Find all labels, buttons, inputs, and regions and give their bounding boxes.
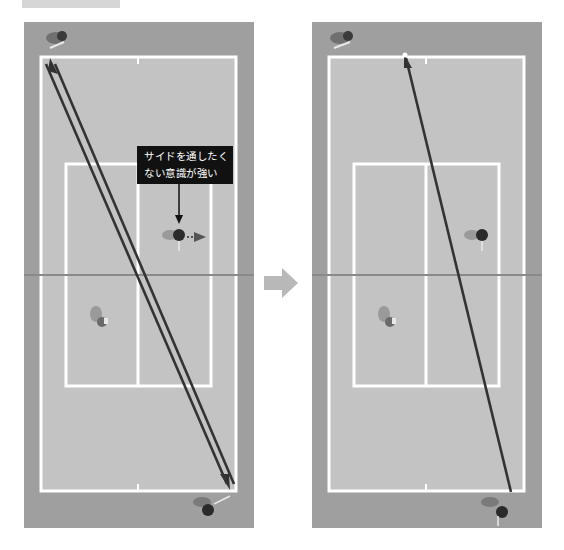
court-before — [24, 22, 254, 528]
player-bottom-right — [193, 496, 230, 516]
section-label-tab — [22, 0, 120, 8]
court-diagram-after — [312, 22, 542, 528]
callout-line-2: ない意識が強い — [144, 165, 233, 182]
court-after — [312, 22, 542, 528]
right-arrow-icon — [264, 268, 298, 298]
player-top-left — [330, 31, 353, 48]
callout-box: サイドを通したく ない意識が強い — [137, 146, 233, 184]
court-diagram-before — [24, 22, 254, 528]
callout-line-1: サイドを通したく — [144, 148, 233, 165]
player-top-left — [46, 31, 67, 48]
player-bottom-right — [481, 497, 508, 526]
